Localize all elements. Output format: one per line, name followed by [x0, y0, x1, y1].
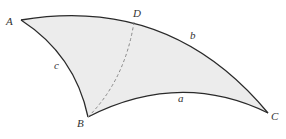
vertex-label-d: D [132, 7, 141, 19]
side-label-a: a [178, 92, 184, 104]
vertex-label-c: C [271, 110, 279, 122]
vertex-label-a: A [5, 15, 13, 27]
side-label-b: b [190, 29, 196, 41]
side-label-c: c [54, 59, 59, 71]
vertex-label-b: B [77, 117, 84, 129]
spherical-triangle-diagram: A D B C b c a [0, 0, 286, 139]
